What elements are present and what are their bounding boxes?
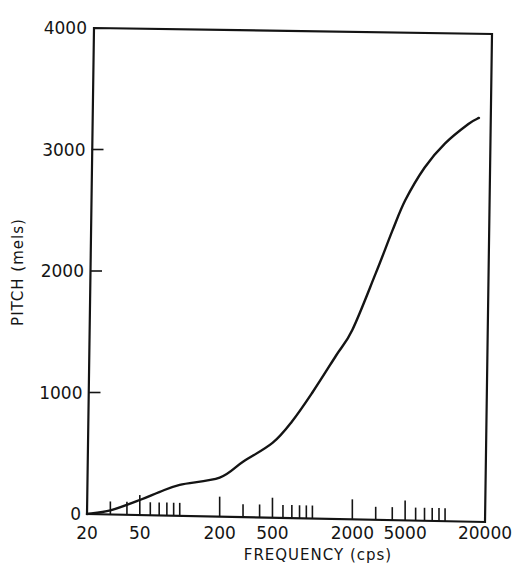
- x-tick-label: 500: [256, 523, 288, 543]
- x-axis-tick-labels: 20502005002000500020000: [76, 523, 512, 543]
- y-axis-title: PITCH (mels): [9, 218, 27, 326]
- x-tick-label: 5000: [383, 523, 426, 543]
- plot-frame: [87, 28, 492, 522]
- x-tick-label: 50: [129, 523, 151, 543]
- mel-scale-chart: 01000200030004000 2050200500200050002000…: [0, 0, 519, 566]
- y-tick-label: 4000: [44, 18, 87, 38]
- y-axis-tick-labels: 01000200030004000: [39, 18, 87, 524]
- y-tick-label: 3000: [42, 140, 85, 160]
- y-tick-label: 2000: [41, 261, 84, 281]
- x-tick-label: 20: [76, 523, 98, 543]
- x-tick-label: 2000: [331, 523, 374, 543]
- y-tick-label: 0: [70, 504, 81, 524]
- pitch-curve: [87, 118, 479, 514]
- x-tick-label: 20000: [458, 523, 512, 543]
- x-axis-title: FREQUENCY (cps): [244, 546, 392, 564]
- x-tick-label: 200: [203, 523, 235, 543]
- y-tick-label: 1000: [39, 383, 82, 403]
